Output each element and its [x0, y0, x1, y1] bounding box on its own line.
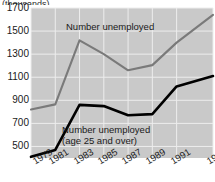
- y-axis-tick-500: 500: [1, 141, 29, 151]
- y-axis-tick-700: 700: [1, 118, 29, 128]
- x-axis: 19791981198319851987198919911994: [31, 158, 215, 182]
- annotation-25over-line1: Number unemployed: [62, 124, 150, 135]
- y-axis: 1700150013001100900700500: [0, 8, 29, 158]
- annotation-25over-line2: (age 25 and over): [62, 135, 150, 146]
- annotation-total-line1: Number unemployed: [66, 21, 154, 32]
- y-axis-tick-900: 900: [1, 95, 29, 105]
- annotation-unemployed-25-over: Number unemployed (age 25 and over): [62, 124, 150, 146]
- y-axis-tick-1500: 1500: [1, 26, 29, 36]
- y-axis-tick-1300: 1300: [1, 49, 29, 59]
- y-axis-tick-1700: 1700: [1, 3, 29, 13]
- y-axis-tick-1100: 1100: [1, 72, 29, 82]
- annotation-total-unemployed: Number unemployed: [66, 21, 154, 32]
- chart-figure: (thousands) 1700150013001100900700500 Nu…: [0, 0, 215, 182]
